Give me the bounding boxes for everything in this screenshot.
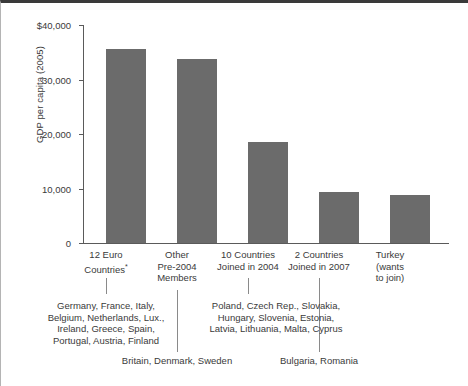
x-label-line3: Members [125,272,229,284]
x-label-line3: to join) [338,272,442,284]
y-tick-0: 0 [79,243,84,244]
x-label-turkey: Turkey (wants to join) [338,249,442,284]
y-tick-40000: $40,000 [79,25,84,26]
y-tick-label-30000: 30,000 [42,74,71,85]
note-joined2007: Bulgaria, Romania [254,355,384,367]
note-line: Hungary, Slovenia, Estonia, [191,312,361,324]
chart-figure: GDP per capita (2005) $40,000 30,000 20,… [0,0,468,386]
bar-turkey[interactable] [390,195,430,243]
note-joined2004: Poland, Czech Rep., Slovakia, Hungary, S… [191,300,361,335]
note-line: Portugal, Austria, Finland [28,335,184,347]
y-tick-label-10000: 10,000 [42,183,71,194]
x-label-line1: Turkey [338,249,442,261]
y-tick-label-40000: $40,000 [37,20,71,31]
bar-12-euro-countries[interactable] [106,49,146,243]
connector-euro12 [106,278,107,294]
connector-joined2004 [248,278,249,294]
note-line: Bulgaria, Romania [254,355,384,367]
bar-joined-2004[interactable] [248,142,288,243]
bar-joined-2007[interactable] [319,192,359,243]
note-line: Belgium, Netherlands, Lux., [28,312,184,324]
y-tick-label-0: 0 [66,238,71,249]
y-tick-20000: 20,000 [79,134,84,135]
note-other-pre2004: Britain, Denmark, Sweden [97,355,257,367]
y-axis-title: GDP per capita (2005) [34,15,45,175]
plot-area: $40,000 30,000 20,000 10,000 0 [83,25,449,243]
x-label-line2: (wants [338,261,442,273]
note-line: Ireland, Greece, Spain, [28,323,184,335]
note-line: Latvia, Lithuania, Malta, Cyprus [191,323,361,335]
y-tick-label-20000: 20,000 [42,129,71,140]
bar-other-pre-2004[interactable] [177,59,217,243]
note-line: Germany, France, Italy, [28,300,184,312]
y-tick-30000: 30,000 [79,80,84,81]
note-line: Britain, Denmark, Sweden [97,355,257,367]
y-tick-10000: 10,000 [79,189,84,190]
x-axis-line [83,243,449,244]
note-euro12: Germany, France, Italy, Belgium, Netherl… [28,300,184,346]
note-line: Poland, Czech Rep., Slovakia, [191,300,361,312]
